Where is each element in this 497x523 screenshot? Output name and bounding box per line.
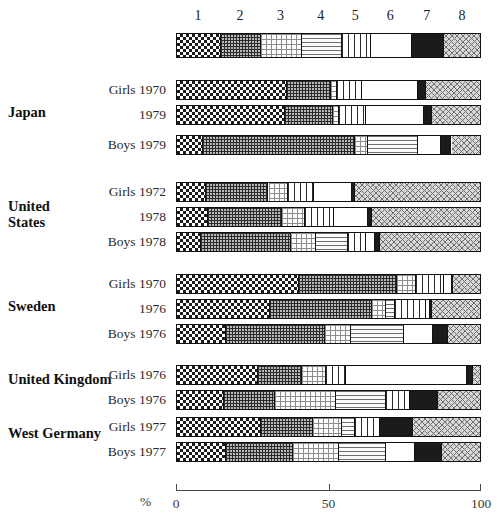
bar-segment-diagonal-hatch <box>453 275 481 293</box>
bar-segment-fine-grid <box>285 106 332 124</box>
bar-segment-vertical-stripes <box>355 418 379 436</box>
legend-swatch-white <box>371 34 412 57</box>
bar-segment-checkerboard <box>177 208 208 226</box>
legend-number-5: 5 <box>341 8 370 24</box>
bar-segment-fine-grid <box>206 183 269 201</box>
bar-segment-fine-grid <box>203 136 356 154</box>
bar-segment-diagonal-hatch <box>452 136 482 154</box>
bar-segment-horizontal-dashes <box>351 325 404 343</box>
bar-segment-white <box>404 325 433 343</box>
bar-segment-fine-grid <box>224 391 274 409</box>
bar-segment-fine-grid <box>201 233 291 251</box>
bar-segment-fine-grid <box>208 208 283 226</box>
bar-segment-fine-grid <box>261 418 313 436</box>
bar-segment-fine-grid <box>226 325 325 343</box>
row-label: Girls 1970 <box>0 276 166 292</box>
bar-segment-diagonal-hatch <box>380 233 481 251</box>
bar-segment-sparse-dots <box>275 391 336 409</box>
bar-segment-diagonal-hatch <box>426 81 481 99</box>
bar-segment-white <box>418 136 441 154</box>
bar-segment-sparse-dots <box>269 183 289 201</box>
stacked-bar <box>176 182 481 202</box>
bar-segment-horizontal-dashes <box>342 418 356 436</box>
stacked-bar <box>176 417 481 437</box>
bar-segment-fine-grid <box>226 443 293 461</box>
row-label: Girls 1977 <box>0 419 166 435</box>
stacked-bar-chart: 12345678 JapanUnitedStatesSwedenUnited K… <box>0 0 497 523</box>
legend-swatch-solid-black <box>412 34 444 57</box>
bar-segment-solid-black <box>415 443 442 461</box>
stacked-bar <box>176 135 481 155</box>
bar-segment-horizontal-dashes <box>339 443 386 461</box>
bar-segment-checkerboard <box>177 366 258 384</box>
bar-segment-solid-black <box>424 106 432 124</box>
legend-swatch-checkerboard <box>177 34 221 57</box>
bar-segment-vertical-stripes <box>416 275 443 293</box>
bar-segment-horizontal-dashes <box>368 136 418 154</box>
row-label: Girls 1970 <box>0 82 166 98</box>
bar-segment-vertical-stripes <box>337 81 361 99</box>
bar-segment-sparse-dots <box>325 325 351 343</box>
stacked-bar <box>176 80 481 100</box>
bar-segment-checkerboard <box>177 136 203 154</box>
bar-segment-vertical-stripes <box>326 366 346 384</box>
bar-segment-checkerboard <box>177 275 299 293</box>
bar-segment-white <box>314 183 352 201</box>
axis-tick-label-100: 100 <box>456 496 497 512</box>
legend-swatch-diagonal-hatch <box>444 34 481 57</box>
stacked-bar <box>176 232 481 252</box>
bar-segment-diagonal-hatch <box>442 443 481 461</box>
bar-segment-sparse-dots <box>282 208 305 226</box>
bar-segment-checkerboard <box>177 391 224 409</box>
bar-segment-sparse-dots <box>355 136 367 154</box>
stacked-bar <box>176 105 481 125</box>
bar-segment-diagonal-hatch <box>448 325 481 343</box>
bar-segment-solid-black <box>433 325 448 343</box>
bar-segment-vertical-stripes <box>339 106 366 124</box>
bar-segment-fine-grid <box>270 300 372 318</box>
stacked-bar <box>176 324 481 344</box>
axis-tick-100 <box>480 484 481 491</box>
bar-segment-sparse-dots <box>313 418 342 436</box>
legend-key-bar <box>176 33 481 58</box>
stacked-bar <box>176 299 481 319</box>
bar-segment-solid-black <box>380 418 414 436</box>
axis-unit-label: % <box>140 494 151 510</box>
bar-segment-checkerboard <box>177 418 261 436</box>
legend-number-1: 1 <box>176 8 220 24</box>
row-label: Boys 1979 <box>0 137 166 153</box>
legend-number-2: 2 <box>220 8 260 24</box>
bar-segment-diagonal-hatch <box>432 300 481 318</box>
bar-segment-diagonal-hatch <box>473 366 481 384</box>
bar-segment-checkerboard <box>177 443 226 461</box>
axis-tick-0 <box>176 484 177 491</box>
bar-segment-white <box>334 208 368 226</box>
bar-segment-fine-grid <box>299 275 397 293</box>
bar-segment-diagonal-hatch <box>372 208 481 226</box>
bar-segment-white <box>386 443 415 461</box>
stacked-bar <box>176 274 481 294</box>
bar-segment-solid-black <box>441 136 452 154</box>
bar-segment-sparse-dots <box>291 233 315 251</box>
bar-segment-vertical-stripes <box>305 208 334 226</box>
bar-segment-checkerboard <box>177 183 206 201</box>
legend-number-4: 4 <box>301 8 341 24</box>
bar-segment-checkerboard <box>177 106 285 124</box>
legend-number-7: 7 <box>411 8 443 24</box>
bar-segment-horizontal-dashes <box>386 300 395 318</box>
row-label: Boys 1977 <box>0 444 166 460</box>
legend-number-3: 3 <box>260 8 301 24</box>
bar-segment-sparse-dots <box>372 300 386 318</box>
legend-number-8: 8 <box>443 8 481 24</box>
row-label: Boys 1976 <box>0 392 166 408</box>
bar-segment-checkerboard <box>177 325 226 343</box>
row-label: Boys 1976 <box>0 326 166 342</box>
stacked-bar <box>176 390 481 410</box>
legend-swatch-vertical-stripes <box>342 34 371 57</box>
bar-segment-vertical-stripes <box>395 300 426 318</box>
bar-segment-horizontal-dashes <box>316 233 348 251</box>
axis-tick-50 <box>329 484 330 491</box>
stacked-bar <box>176 207 481 227</box>
bar-segment-diagonal-hatch <box>438 391 481 409</box>
bar-segment-white <box>346 366 466 384</box>
